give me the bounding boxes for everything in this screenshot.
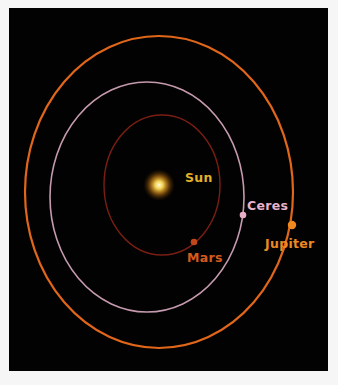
jupiter-label: Jupiter	[265, 236, 315, 251]
ceres-dot	[240, 212, 247, 219]
sun-label: Sun	[185, 170, 213, 185]
mars-dot	[191, 239, 198, 246]
jupiter-dot	[288, 221, 296, 229]
mars-label: Mars	[187, 250, 223, 265]
orbit-diagram	[0, 0, 338, 385]
sun-icon	[143, 169, 175, 201]
ceres-label: Ceres	[247, 198, 288, 213]
